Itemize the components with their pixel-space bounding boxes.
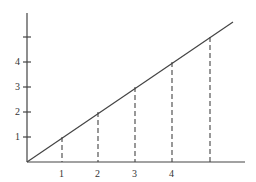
y-tick-label-4: 4 bbox=[15, 56, 20, 67]
y-tick-label-2: 2 bbox=[15, 106, 20, 117]
x-tick-label-4: 4 bbox=[169, 168, 174, 179]
x-tick-label-3: 3 bbox=[132, 168, 137, 179]
dashed-drops bbox=[62, 37, 210, 162]
data-line bbox=[27, 22, 233, 162]
chart: 1 2 3 4 1 2 3 4 bbox=[0, 0, 256, 182]
x-tick-label-1: 1 bbox=[59, 168, 64, 179]
x-tick-label-2: 2 bbox=[95, 168, 100, 179]
y-tick-label-1: 1 bbox=[15, 131, 20, 142]
y-tick-label-3: 3 bbox=[15, 81, 20, 92]
